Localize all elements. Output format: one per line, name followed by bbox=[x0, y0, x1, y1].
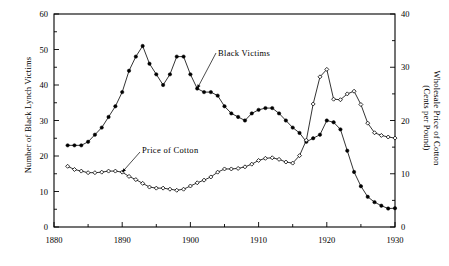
series-marker bbox=[107, 115, 110, 118]
x-tick-label: 1890 bbox=[114, 235, 131, 245]
x-axis-tick-labels: 188018901900191019201930 bbox=[46, 235, 404, 245]
series-marker bbox=[264, 106, 267, 109]
series-marker bbox=[284, 160, 288, 164]
y-left-tick-label: 50 bbox=[40, 45, 49, 55]
series-marker bbox=[188, 184, 192, 188]
series-marker bbox=[121, 90, 124, 93]
series-line bbox=[68, 46, 395, 209]
series-marker bbox=[127, 174, 131, 178]
y-axis-left-ticks bbox=[54, 14, 59, 227]
series-marker bbox=[318, 133, 321, 136]
series-marker bbox=[236, 115, 239, 118]
series-marker bbox=[243, 165, 247, 169]
series-marker bbox=[148, 62, 151, 65]
chart-canvas: 188018901900191019201930 0102030405060 0… bbox=[0, 0, 449, 266]
series-marker bbox=[80, 144, 83, 147]
series-marker bbox=[86, 140, 89, 143]
series-marker bbox=[311, 137, 314, 140]
y-axis-right-tick-labels: 010203040 bbox=[401, 9, 410, 232]
series-marker bbox=[352, 170, 355, 173]
series-marker bbox=[127, 69, 130, 72]
series-marker bbox=[284, 119, 287, 122]
x-tick-label: 1930 bbox=[387, 235, 404, 245]
series-marker bbox=[250, 162, 254, 166]
x-tick-label: 1920 bbox=[318, 235, 335, 245]
lynching-cotton-price-chart: 188018901900191019201930 0102030405060 0… bbox=[0, 0, 449, 266]
y-left-tick-label: 60 bbox=[40, 9, 49, 19]
y-right-tick-label: 0 bbox=[401, 222, 405, 232]
series-marker bbox=[202, 178, 206, 182]
series-marker bbox=[66, 164, 70, 168]
series-marker bbox=[79, 169, 83, 173]
y-right-tick-label: 20 bbox=[401, 116, 410, 126]
series-marker bbox=[393, 206, 396, 209]
series-marker bbox=[141, 44, 144, 47]
y-axis-right-title-line2: (Cents per Pound) bbox=[422, 85, 432, 150]
series-marker bbox=[134, 178, 138, 182]
series-marker bbox=[182, 55, 185, 58]
series-marker bbox=[223, 105, 226, 108]
series-marker bbox=[271, 106, 274, 109]
series-marker bbox=[154, 186, 158, 190]
series-marker bbox=[168, 187, 172, 191]
series-marker bbox=[332, 121, 335, 124]
series-marker bbox=[216, 94, 219, 97]
series-marker bbox=[325, 119, 328, 122]
series-marker bbox=[86, 171, 90, 175]
y-left-tick-label: 30 bbox=[40, 116, 49, 126]
series-marker bbox=[147, 185, 151, 189]
y-right-tick-label: 40 bbox=[401, 9, 410, 19]
series-marker bbox=[277, 112, 280, 115]
series-marker bbox=[202, 90, 205, 93]
series-markers bbox=[66, 44, 397, 210]
y-left-tick-label: 20 bbox=[40, 151, 49, 161]
series-marker bbox=[155, 73, 158, 76]
series-marker bbox=[311, 102, 315, 106]
series-marker bbox=[182, 187, 186, 191]
series-marker bbox=[195, 181, 199, 185]
series-marker bbox=[373, 200, 376, 203]
series-marker bbox=[250, 112, 253, 115]
series-marker bbox=[332, 97, 336, 101]
y-left-tick-label: 0 bbox=[44, 222, 48, 232]
series-marker bbox=[161, 83, 164, 86]
x-tick-label: 1910 bbox=[250, 235, 267, 245]
series-marker bbox=[141, 181, 145, 185]
series-marker bbox=[113, 169, 117, 173]
x-tick-label: 1900 bbox=[182, 235, 199, 245]
series-marker bbox=[346, 149, 349, 152]
series-marker bbox=[352, 89, 356, 93]
series-marker bbox=[236, 166, 240, 170]
series-marker bbox=[366, 195, 369, 198]
y-right-tick-label: 10 bbox=[401, 169, 410, 179]
y-axis-left-tick-labels: 0102030405060 bbox=[40, 9, 49, 232]
series-marker bbox=[230, 112, 233, 115]
annotation-price-of-cotton: Price of Cotton bbox=[142, 145, 198, 155]
series-marker bbox=[270, 156, 274, 160]
series-marker bbox=[380, 204, 383, 207]
series-marker bbox=[386, 207, 389, 210]
series-marker bbox=[298, 131, 301, 134]
series-marker bbox=[72, 167, 76, 171]
series-marker bbox=[339, 128, 342, 131]
series-marker bbox=[66, 144, 69, 147]
y-axis-right-title: Wholesale Price of Cotton (Cents per Pou… bbox=[422, 38, 442, 198]
series-marker bbox=[100, 170, 104, 174]
series-marker bbox=[229, 167, 233, 171]
series-marker bbox=[209, 90, 212, 93]
x-axis-ticks bbox=[54, 222, 395, 227]
series-marker bbox=[277, 157, 281, 161]
series-marker bbox=[189, 73, 192, 76]
annotation-leader-line bbox=[122, 152, 140, 172]
series-marker bbox=[175, 55, 178, 58]
series-marker bbox=[359, 103, 363, 107]
y-axis-right-ticks bbox=[390, 14, 395, 227]
annotation-leader-line bbox=[197, 53, 216, 89]
series-marker bbox=[263, 156, 267, 160]
series-marker bbox=[168, 73, 171, 76]
series-marker bbox=[73, 144, 76, 147]
y-left-tick-label: 40 bbox=[40, 80, 49, 90]
axis-frame bbox=[54, 14, 395, 227]
series-marker bbox=[175, 188, 179, 192]
series-marker bbox=[100, 126, 103, 129]
